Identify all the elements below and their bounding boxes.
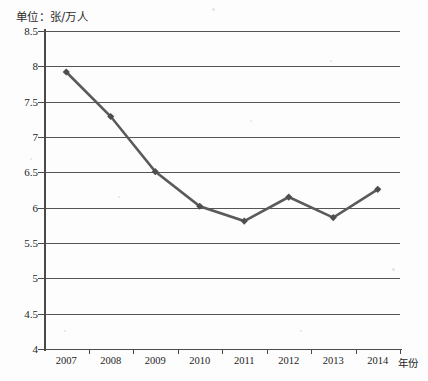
x-tick-label: 2014 [367, 355, 388, 366]
x-tick-label: 2013 [323, 355, 344, 366]
x-tick-label: 2010 [189, 355, 210, 366]
scan-artifact [392, 268, 395, 271]
y-tick-mark [38, 31, 44, 32]
x-tick-label: 2007 [56, 355, 77, 366]
x-tick-label: 2008 [100, 355, 121, 366]
x-tick-mark [178, 349, 179, 354]
y-tick-mark [38, 137, 44, 138]
series-markers [63, 68, 382, 224]
x-tick-mark [222, 349, 223, 354]
y-tick-mark [38, 66, 44, 67]
x-tick-mark [267, 349, 268, 354]
scan-artifact [330, 60, 332, 62]
scan-artifact [300, 330, 302, 332]
x-axis-title: 年份 [398, 355, 418, 370]
y-tick-mark [38, 278, 44, 279]
x-tick-label: 2011 [234, 355, 255, 366]
data-series [0, 0, 428, 381]
x-tick-mark [133, 349, 134, 354]
x-tick-mark [89, 349, 90, 354]
y-tick-mark [38, 208, 44, 209]
scan-artifact [30, 158, 32, 160]
x-tick-mark [311, 349, 312, 354]
line-chart: 单位：张/万人 44.555.566.577.588.5 年份 20072008… [0, 0, 428, 381]
scan-artifact [212, 8, 215, 11]
x-tick-mark [356, 349, 357, 354]
series-line [66, 72, 378, 221]
y-tick-mark [38, 102, 44, 103]
scan-artifact [118, 196, 120, 198]
x-tick-label: 2009 [145, 355, 166, 366]
y-tick-mark [38, 172, 44, 173]
y-tick-mark [38, 314, 44, 315]
scan-artifact [250, 120, 252, 122]
x-tick-label: 2012 [278, 355, 299, 366]
x-tick-mark [400, 349, 401, 354]
y-tick-mark [38, 243, 44, 244]
y-tick-mark [38, 349, 44, 350]
scan-artifact [64, 330, 66, 332]
